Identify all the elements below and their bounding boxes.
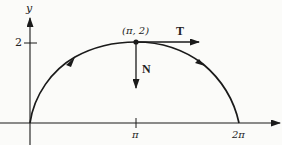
diagram-graphics (0, 0, 282, 145)
x-tick-label-2pi: 2π (232, 130, 245, 140)
normal-label-N: N (142, 63, 151, 75)
arch-curve (30, 42, 239, 123)
peak-point-label: (π, 2) (122, 26, 149, 36)
y-axis-label: y (26, 3, 32, 14)
tangent-label-T: T (176, 25, 184, 37)
peak-point (133, 39, 138, 44)
diagram-canvas: y 2 π 2π (π, 2) T N (0, 0, 282, 145)
x-tick-label-pi: π (132, 130, 139, 140)
y-tick-label-2: 2 (15, 37, 22, 48)
axis-ticks (24, 43, 136, 128)
